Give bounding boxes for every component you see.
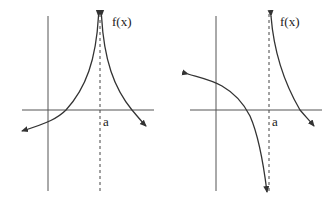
- left-curve-left-branch: [22, 16, 99, 131]
- left-graph: f(x) a: [22, 14, 154, 191]
- right-asymptote-label: a: [272, 114, 278, 129]
- right-graph: f(x) a: [188, 14, 322, 194]
- left-asymptote-label: a: [103, 114, 109, 129]
- left-function-label: f(x): [112, 14, 132, 29]
- right-curve-left-branch: [188, 74, 267, 192]
- right-function-label: f(x): [280, 14, 300, 29]
- graphs-figure: f(x) a f(x) a: [0, 0, 336, 204]
